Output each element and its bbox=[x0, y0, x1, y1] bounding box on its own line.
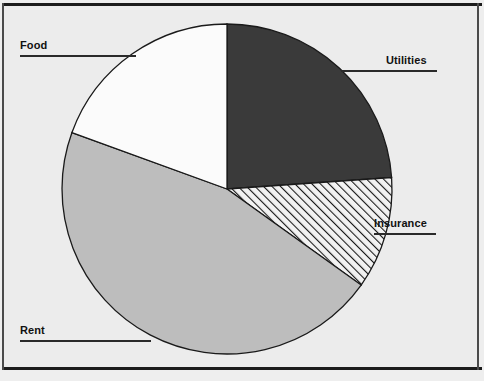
pie-slices-group bbox=[62, 24, 392, 354]
pie-slice-utilities bbox=[227, 24, 392, 189]
slice-label-rent: Rent bbox=[20, 324, 45, 336]
slice-label-food: Food bbox=[20, 39, 47, 51]
slice-label-utilities: Utilities bbox=[386, 54, 427, 66]
leader-line-utilities bbox=[341, 70, 437, 72]
leader-line-food bbox=[20, 55, 136, 57]
leader-line-rent bbox=[20, 340, 151, 342]
pie-chart-figure: Food Utilities Insurance Rent bbox=[0, 0, 484, 381]
leader-line-insurance bbox=[374, 233, 436, 235]
slice-label-insurance: Insurance bbox=[374, 217, 427, 229]
